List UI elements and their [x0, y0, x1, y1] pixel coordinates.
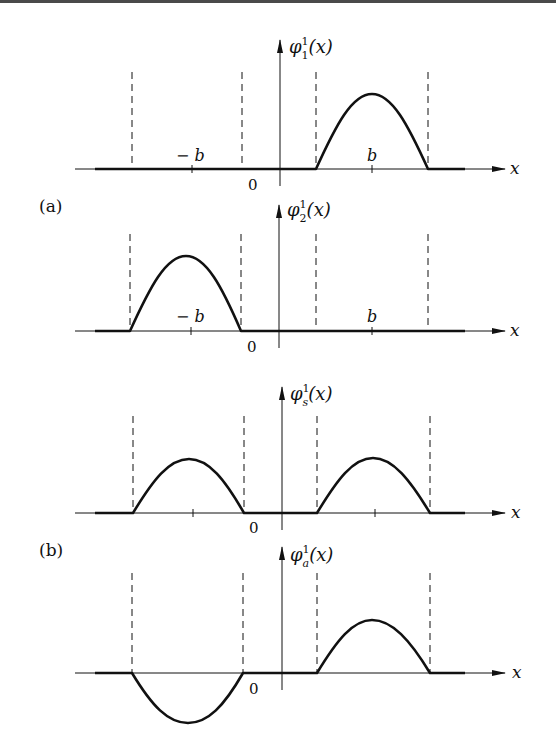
tick-label-pos-b: b: [367, 146, 377, 165]
y-axis-label: φ1s(x): [290, 382, 332, 409]
curve-phi2: [95, 256, 465, 331]
origin-label: 0: [249, 680, 259, 698]
origin-label: 0: [247, 338, 257, 356]
plot-phi1: − b b 0 x φ11(x): [75, 35, 520, 194]
tick-label-pos-b: b: [367, 307, 377, 326]
plot-phi2: − b b 0 x φ12(x): [75, 198, 520, 356]
origin-label: 0: [248, 176, 258, 194]
y-axis-label: φ1a(x): [290, 543, 333, 570]
curve-phis: [95, 458, 465, 513]
tick-label-neg-b: − b: [176, 307, 205, 326]
x-axis-label: x: [511, 502, 521, 522]
plot-phis: 0 x φ1s(x): [75, 382, 521, 537]
y-axis-label: φ12(x): [287, 198, 331, 225]
plot-phia: 0 x φ1a(x): [75, 543, 522, 723]
y-axis-label: φ11(x): [289, 35, 333, 62]
x-axis-label: x: [510, 158, 520, 178]
x-axis-label: x: [512, 662, 522, 682]
curve-phia: [95, 620, 465, 723]
tick-label-neg-b: − b: [176, 146, 205, 165]
wavefunction-diagram: − b b 0 x φ11(x) − b b 0 x φ12(x): [0, 0, 556, 753]
x-axis-label: x: [510, 320, 520, 340]
origin-label: 0: [249, 519, 259, 537]
